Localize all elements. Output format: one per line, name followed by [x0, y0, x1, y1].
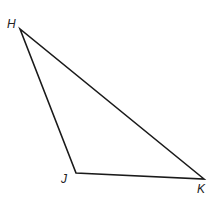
vertex-label-h: H [7, 17, 16, 31]
triangle-hjk [20, 29, 204, 179]
vertex-label-j: J [60, 172, 68, 186]
vertex-label-k: K [197, 182, 206, 196]
triangle-diagram: H J K [0, 0, 220, 198]
